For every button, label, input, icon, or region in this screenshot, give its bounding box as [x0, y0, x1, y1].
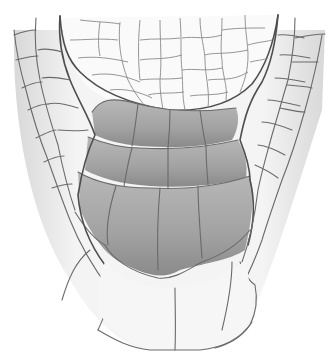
root-cap-drawing [0, 0, 333, 362]
root-tip-illustration [0, 0, 333, 362]
